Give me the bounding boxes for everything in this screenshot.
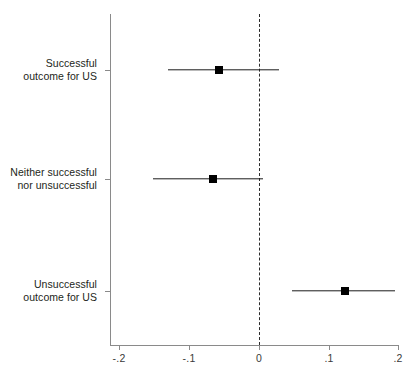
point-marker-0 bbox=[215, 66, 223, 74]
y-tick-mark-1 bbox=[105, 179, 110, 180]
point-marker-1 bbox=[209, 175, 217, 183]
x-tick-mark-0 bbox=[119, 345, 120, 350]
x-axis-line bbox=[110, 345, 398, 346]
category-label-unsuccessful-outcome: Unsuccessful outcome for US bbox=[23, 278, 97, 303]
x-tick-label-1: -.1 bbox=[183, 352, 196, 364]
x-tick-label-2: 0 bbox=[256, 352, 262, 364]
x-tick-mark-2 bbox=[259, 345, 260, 350]
x-tick-mark-4 bbox=[398, 345, 399, 350]
y-tick-mark-2 bbox=[105, 291, 110, 292]
ci-whisker-0 bbox=[168, 69, 279, 70]
coefficient-plot-figure: -.2 -.1 0 .1 .2 Successful outcome for U… bbox=[0, 0, 418, 374]
category-label-neither-successful: Neither successful nor unsuccessful bbox=[10, 166, 97, 191]
x-tick-mark-1 bbox=[189, 345, 190, 350]
x-tick-label-0: -.2 bbox=[113, 352, 126, 364]
y-tick-mark-0 bbox=[105, 70, 110, 71]
y-axis-line bbox=[110, 14, 111, 345]
x-tick-label-3: .1 bbox=[324, 352, 333, 364]
point-marker-2 bbox=[341, 287, 349, 295]
x-tick-label-4: .2 bbox=[393, 352, 402, 364]
x-tick-mark-3 bbox=[329, 345, 330, 350]
category-label-successful-outcome: Successful outcome for US bbox=[23, 57, 97, 82]
